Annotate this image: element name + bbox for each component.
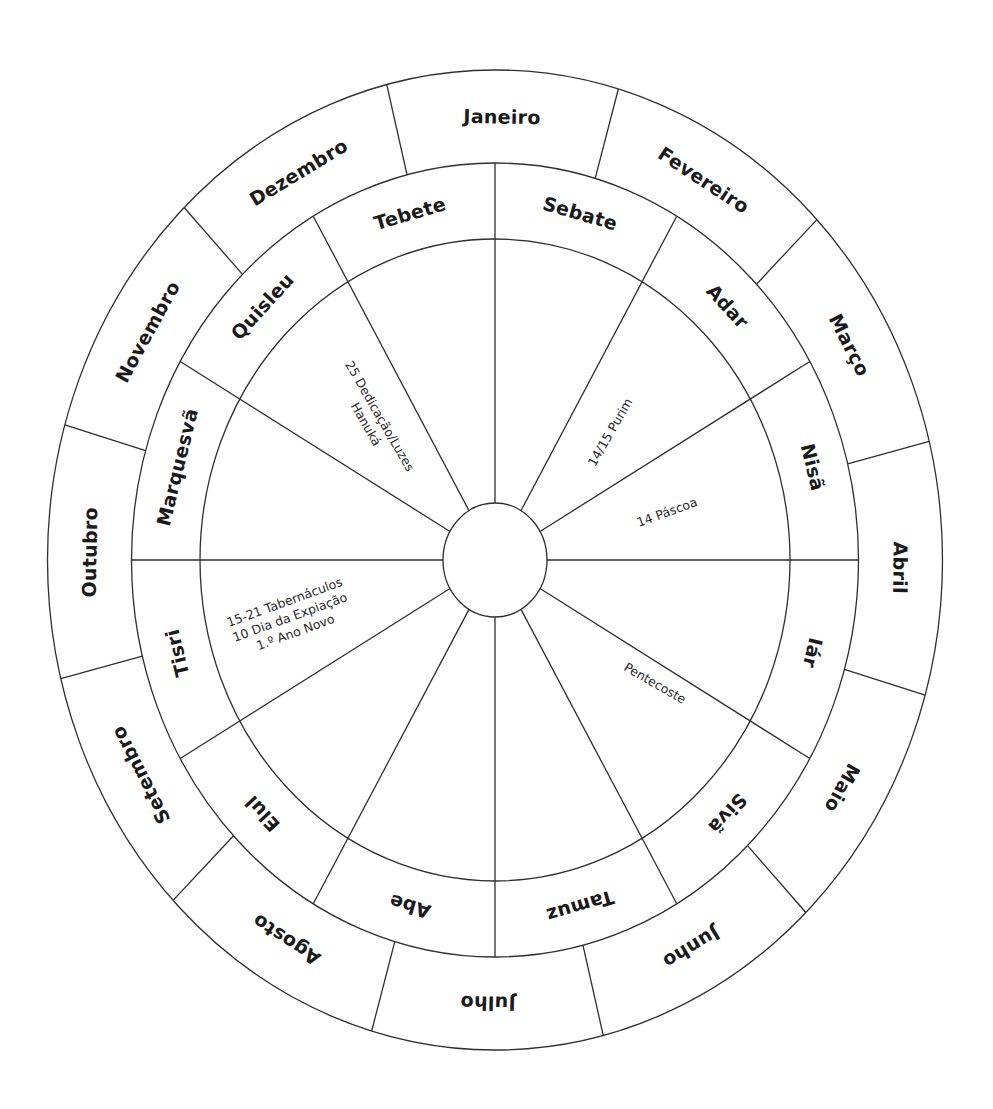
hebrew-month-divider [521,216,677,510]
hebrew-month-elul: Elul [240,791,284,836]
hebrew-month-iar: Iár [799,636,828,671]
gregorian-month-divider [848,441,930,463]
gregorian-month-junho: Junho [659,921,725,973]
gregorian-month-dezembro: Dezembro [245,134,351,210]
gregorian-month-fevereiro: Fevereiro [654,142,753,218]
hebrew-month-divider [521,609,677,903]
hebrew-month-divider [313,609,469,903]
gregorian-month-divider [61,656,143,678]
gregorian-month-outubro: Outubro [78,507,101,598]
gregorian-month-divider [748,846,806,913]
gregorian-month-setembro: Setembro [106,722,174,827]
feast-label-tisri: 15-21 Tabernáculos10 Dia da Expiação1.º … [225,574,356,660]
gregorian-month-divider [844,669,925,695]
hebrew-month-marquesva: Marquesvã [152,406,202,528]
gregorian-month-abril: Abril [889,541,912,594]
hebrew-month-adar: Adar [702,280,753,333]
gregorian-month-divider [583,945,603,1035]
gregorian-month-julho: Julho [460,992,518,1015]
gregorian-month-marco: Março [825,310,875,380]
feast-label-siva: Pentecoste [621,659,688,707]
feast-label-nisa: 14 Páscoa [635,494,700,530]
hebrew-month-tamuz: Tamuz [544,887,617,928]
hebrew-month-tisri: Tisri [161,627,194,679]
hebrew-month-sebate: Sebate [540,192,620,235]
feast-label-adar: 14/15 Purim [584,395,635,468]
hebrew-month-tebete: Tebete [371,192,448,234]
gregorian-month-divider [387,85,407,175]
feast-labels: 25 Dedicação/LuzesHanuká14/15 Purim14 Pá… [225,358,700,707]
gregorian-month-divider [173,836,233,901]
calendar-wheel: JaneiroFevereiroMarçoAbrilMaioJunhoJulho… [0,0,993,1109]
hebrew-month-divider [180,362,450,532]
gregorian-month-janeiro: Janeiro [461,105,541,129]
hebrew-month-divider [313,216,469,510]
gregorian-month-maio: Maio [820,760,865,817]
hub-circle [443,503,547,617]
hebrew-month-divider [540,589,810,759]
hebrew-month-nisa: Nisã [797,441,830,493]
gregorian-month-agosto: Agosto [248,910,324,970]
gregorian-month-divider [65,425,146,451]
gregorian-month-divider [184,208,242,275]
gregorian-month-divider [756,220,816,285]
gregorian-month-divider [595,89,618,178]
month-dividers [61,85,929,1036]
hebrew-month-siva: Sivã [704,789,752,838]
hebrew-month-abe: Abe [386,890,433,923]
gregorian-month-novembro: Novembro [111,277,184,386]
gregorian-month-divider [372,942,395,1031]
